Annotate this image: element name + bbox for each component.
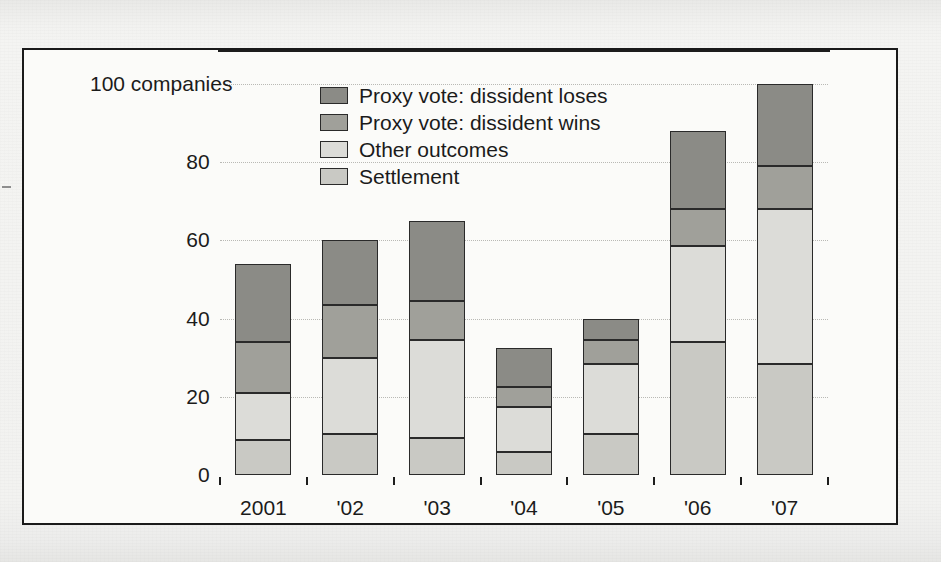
chart-figure-frame: 020406080 2001'02'03'04'05'06'07 100 com… (22, 48, 898, 525)
bar-segment[interactable] (235, 393, 291, 440)
legend-swatch-icon (320, 114, 348, 131)
x-axis-tick-mark (653, 477, 655, 485)
bar-segment[interactable] (583, 364, 639, 434)
x-axis-tick-mark (219, 477, 221, 485)
bar-segment[interactable] (757, 209, 813, 363)
page-margin-tick (2, 186, 11, 188)
bar-segment[interactable] (322, 358, 378, 434)
x-axis-tick-label-1: '02 (305, 497, 395, 518)
x-axis-tick-mark (393, 477, 395, 485)
bar-segment[interactable] (409, 438, 465, 475)
legend-swatch-icon (320, 168, 348, 185)
legend-item-label: Proxy vote: dissident loses (359, 85, 608, 106)
bar-segment[interactable] (496, 387, 552, 407)
legend-swatch-icon (320, 141, 348, 158)
bar-segment[interactable] (322, 240, 378, 305)
x-axis-tick-label-0: 2001 (218, 497, 308, 518)
x-axis-baseline (218, 50, 830, 52)
bar-segment[interactable] (757, 166, 813, 209)
y-axis-tick-label: 80 (24, 151, 210, 172)
legend-item-label: Other outcomes (359, 139, 508, 160)
legend-item-label: Proxy vote: dissident wins (359, 112, 601, 133)
bar-segment[interactable] (409, 301, 465, 340)
y-axis-tick-label: 40 (24, 308, 210, 329)
stacked-bar-chart: 020406080 2001'02'03'04'05'06'07 100 com… (24, 50, 900, 527)
bar-segment[interactable] (670, 209, 726, 246)
x-axis-tick-label-2: '03 (392, 497, 482, 518)
bar-segment[interactable] (496, 348, 552, 387)
legend-swatch-icon (320, 87, 348, 104)
x-axis-tick-label-3: '04 (479, 497, 569, 518)
legend-item[interactable]: Settlement (320, 163, 608, 190)
bar-column[interactable] (757, 84, 813, 475)
legend-item-label: Settlement (359, 166, 459, 187)
bar-segment[interactable] (235, 342, 291, 393)
bar-column[interactable] (235, 84, 291, 475)
legend-item[interactable]: Other outcomes (320, 136, 608, 163)
bar-column[interactable] (670, 84, 726, 475)
x-axis-tick-mark (566, 477, 568, 485)
x-axis-tick-mark (306, 477, 308, 485)
y-axis-unit-label: 100 companies (90, 73, 232, 94)
bar-segment[interactable] (757, 84, 813, 166)
y-axis-tick-label: 0 (24, 464, 210, 485)
x-axis-tick-mark (827, 477, 829, 485)
legend-item[interactable]: Proxy vote: dissident loses (320, 82, 608, 109)
bar-segment[interactable] (583, 319, 639, 341)
bar-segment[interactable] (322, 305, 378, 358)
y-axis-tick-label: 60 (24, 229, 210, 250)
bar-segment[interactable] (757, 364, 813, 475)
legend-item[interactable]: Proxy vote: dissident wins (320, 109, 608, 136)
bar-segment[interactable] (409, 221, 465, 301)
x-axis-tick-mark (480, 477, 482, 485)
bar-segment[interactable] (322, 434, 378, 475)
y-axis-tick-label: 20 (24, 386, 210, 407)
bar-segment[interactable] (670, 131, 726, 209)
bar-segment[interactable] (583, 434, 639, 475)
bar-segment[interactable] (670, 246, 726, 342)
bar-segment[interactable] (496, 407, 552, 452)
x-axis-tick-label-5: '06 (653, 497, 743, 518)
x-axis-tick-mark (740, 477, 742, 485)
x-axis-tick-label-4: '05 (566, 497, 656, 518)
chart-legend: Proxy vote: dissident losesProxy vote: d… (320, 82, 608, 190)
bar-segment[interactable] (583, 340, 639, 363)
bar-segment[interactable] (235, 264, 291, 342)
bar-segment[interactable] (496, 452, 552, 475)
bar-segment[interactable] (235, 440, 291, 475)
bar-segment[interactable] (670, 342, 726, 475)
x-axis-tick-label-6: '07 (740, 497, 830, 518)
bar-segment[interactable] (409, 340, 465, 438)
